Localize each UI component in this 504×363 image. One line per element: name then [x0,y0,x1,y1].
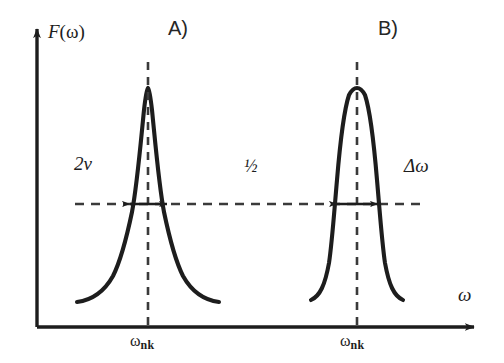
tick-subscript-b: nk [351,338,365,352]
panel-b-group [311,62,403,327]
y-axis-label-function: F [48,21,60,42]
tick-subscript-a: nk [141,338,155,352]
y-axis-label-argument: (ω) [60,21,85,42]
spectral-line-figure: F(ω) A) B) 2ν ½ Δω ω ωnk ωnk [0,0,504,363]
panel-a-center-tick-label: ωnk [130,333,154,351]
half-max-label: ½ [244,157,258,175]
panel-a-caption: A) [168,18,188,38]
gaussian-curve [311,88,403,300]
tick-base-a: ω [130,332,141,349]
panel-b-caption: B) [378,18,398,38]
x-axis-label: ω [458,285,471,304]
figure-canvas [0,0,504,363]
tick-base-b: ω [340,332,351,349]
y-axis-label: F(ω) [48,22,85,41]
panel-b-center-tick-label: ωnk [340,333,364,351]
axes-group [37,29,474,327]
panel-b-width-label: Δω [404,156,429,175]
lorentzian-curve [77,88,219,302]
panel-a-width-label: 2ν [74,154,92,173]
panel-a-group [77,62,219,327]
